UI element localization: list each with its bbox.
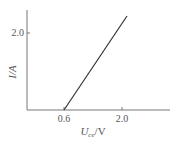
x-axis-label-unit: /V — [95, 125, 106, 137]
x-tick-label-06: 0.6 — [58, 113, 71, 124]
i-u-chart: 2.0 0.6 2.0 I/A Uce/V — [0, 0, 183, 142]
data-line — [64, 16, 127, 110]
y-axis-label: I/A — [6, 65, 18, 80]
y-tick-label: 2.0 — [12, 27, 25, 38]
x-tick-label-20: 2.0 — [116, 113, 129, 124]
x-axis-label: Uce/V — [80, 125, 105, 139]
